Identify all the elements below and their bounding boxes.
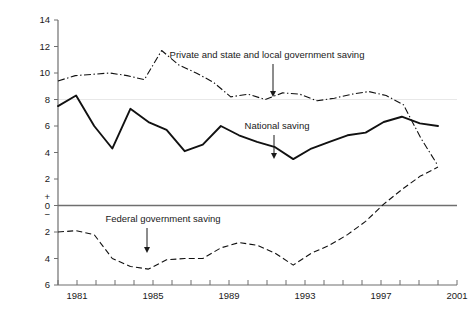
x-tick-label-1993: 1993 xyxy=(294,290,315,301)
x-tick-label-1997: 1997 xyxy=(370,290,391,301)
y-tick-label-4: 4 xyxy=(45,147,50,158)
chart-annotations: Private and state and local government s… xyxy=(105,49,364,253)
series-private-and-state-local-saving xyxy=(58,50,438,165)
y-tick-label-4: 4 xyxy=(45,253,50,264)
y-tick-label-8: 8 xyxy=(45,94,50,105)
y-tick-label-14: 14 xyxy=(39,14,50,25)
savings-line-chart: 1412108642+0−246 19811985198919931997200… xyxy=(0,0,471,316)
annotation-label-1: National saving xyxy=(245,120,310,131)
x-tick-label-2001: 2001 xyxy=(446,290,467,301)
y-axis: 1412108642+0−246 xyxy=(39,14,58,290)
y-tick-label-2: 2 xyxy=(45,173,50,184)
x-tick-label-1985: 1985 xyxy=(142,290,163,301)
chart-container: 1412108642+0−246 19811985198919931997200… xyxy=(0,0,471,316)
y-tick-label-6: 6 xyxy=(45,120,50,131)
y-tick-label-2: 2 xyxy=(45,226,50,237)
y-tick-label-6: 6 xyxy=(45,279,50,290)
annotation-arrow-head-1 xyxy=(271,153,277,159)
x-tick-label-1981: 1981 xyxy=(66,290,87,301)
y-tick-label-minus: − xyxy=(44,209,50,220)
x-axis: 198119851989199319972001 xyxy=(58,280,468,301)
y-tick-label-10: 10 xyxy=(39,67,50,78)
annotation-label-2: Federal government saving xyxy=(105,213,220,224)
x-tick-label-1989: 1989 xyxy=(218,290,239,301)
series-lines xyxy=(58,50,438,269)
y-tick-label-12: 12 xyxy=(39,41,50,52)
annotation-label-0: Private and state and local government s… xyxy=(170,49,365,60)
annotation-arrow-head-2 xyxy=(144,247,150,253)
